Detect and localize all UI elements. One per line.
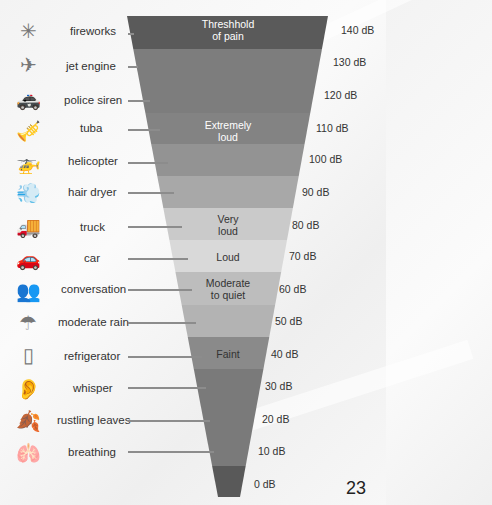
band-130-120 (0, 49, 386, 113)
leader-line (128, 33, 134, 35)
leader-line (128, 66, 138, 68)
source-label-whisper: whisper (73, 382, 113, 394)
leader-line (128, 420, 210, 422)
db-label-50: 50 dB (275, 315, 302, 327)
db-label-0: 0 dB (254, 478, 276, 490)
band-0 (0, 466, 386, 505)
truck-icon: 🚚 (10, 212, 46, 242)
people-talking-icon: 👥 (10, 276, 46, 306)
umbrella-icon: ☂ (10, 308, 46, 338)
db-label-40: 40 dB (271, 348, 298, 360)
leader-line (128, 129, 160, 131)
leader-line (128, 162, 168, 164)
source-label-helicopter: helicopter (68, 155, 118, 167)
source-label-conversation: conversation (61, 283, 126, 295)
whisper-icon: 👂 (10, 374, 46, 404)
db-label-130: 130 dB (333, 56, 366, 68)
leader-line (128, 387, 206, 389)
db-label-120: 120 dB (324, 89, 357, 101)
source-label-truck: truck (80, 221, 105, 233)
leader-line (128, 451, 214, 453)
category-threshold-of-pain: Threshholdof pain (168, 18, 288, 42)
db-label-140: 140 dB (341, 24, 374, 36)
category-very-loud: Veryloud (168, 213, 288, 237)
lungs-icon: 🫁 (10, 438, 46, 468)
source-label-moderate-rain: moderate rain (58, 316, 129, 328)
category-faint: Faint (168, 348, 288, 360)
db-label-20: 20 dB (262, 413, 289, 425)
db-label-80: 80 dB (292, 219, 319, 231)
source-label-breathing: breathing (68, 446, 116, 458)
page-number: 23 (346, 478, 366, 499)
source-label-refrigerator: refrigerator (64, 350, 120, 362)
hair-dryer-icon: 💨 (10, 178, 46, 208)
airplane-icon: ✈ (10, 50, 46, 80)
db-label-10: 10 dB (258, 445, 285, 457)
leader-line (128, 258, 188, 260)
police-car-icon: 🚓 (10, 84, 46, 114)
leader-line (128, 100, 150, 102)
fireworks-icon: ✳ (10, 16, 46, 46)
db-label-110: 110 dB (316, 122, 349, 134)
refrigerator-icon: ▯ (10, 340, 46, 370)
source-label-police-siren: police siren (64, 94, 122, 106)
category-extremely-loud: Extremelyloud (168, 119, 288, 143)
source-label-jet-engine: jet engine (66, 60, 116, 72)
db-label-30: 30 dB (265, 380, 292, 392)
leader-line (128, 356, 202, 358)
leaves-icon: 🍂 (10, 406, 46, 436)
leader-line (128, 226, 182, 228)
category-loud: Loud (168, 251, 288, 263)
source-label-tuba: tuba (80, 122, 102, 134)
tuba-player-icon: 🎺 (10, 116, 46, 146)
helicopter-icon: 🚁 (10, 148, 46, 178)
source-label-hair-dryer: hair dryer (68, 186, 117, 198)
source-label-fireworks: fireworks (70, 25, 116, 37)
leader-line (128, 192, 174, 194)
source-label-car: car (84, 252, 100, 264)
source-label-rustling-leaves: rustling leaves (57, 414, 131, 426)
car-icon: 🚗 (10, 244, 46, 274)
db-label-60: 60 dB (279, 283, 306, 295)
leader-line (128, 289, 192, 291)
db-label-90: 90 dB (302, 186, 329, 198)
db-label-70: 70 dB (289, 250, 316, 262)
leader-line (128, 322, 196, 324)
db-label-100: 100 dB (309, 153, 342, 165)
